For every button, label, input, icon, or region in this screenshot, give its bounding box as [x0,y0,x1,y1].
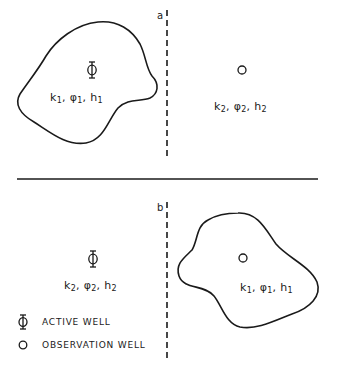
param-k: k [50,91,57,104]
param-h-sub: 1 [97,96,102,105]
legend-observation-well-label: OBSERVATION WELL [42,340,146,350]
legend-active-well-icon [19,315,27,329]
panel-b [89,202,318,358]
param-k: k [240,281,247,294]
param-k: k [214,100,221,113]
active-well-icon [88,62,96,78]
param-k-sub: 2 [71,284,76,293]
param-k-sub: 1 [247,286,252,295]
param-phi-sub: 1 [77,96,82,105]
param-k: k [64,279,71,292]
region-2-params-label: k2, φ2, h2 [214,101,267,113]
observation-well-icon [239,254,247,262]
panel-a-tag: a [157,11,163,21]
param-phi-sub: 1 [267,286,272,295]
region-1-params-label: k1, φ1, h1 [50,92,103,104]
param-k-sub: 1 [57,96,62,105]
param-k-sub: 2 [221,105,226,114]
panel-a [18,10,246,157]
param-phi-sub: 2 [241,105,246,114]
region-1-outline [178,213,318,328]
region-2-params-label: k2, φ2, h2 [64,280,117,292]
observation-well-icon [238,66,246,74]
param-phi-sub: 2 [91,284,96,293]
param-h-sub: 2 [261,105,266,114]
param-h-sub: 1 [287,286,292,295]
legend-active-well-label: ACTIVE WELL [42,317,111,327]
region-1-params-label: k1, φ1, h1 [240,282,293,294]
panel-b-tag: b [157,203,163,213]
region-1-outline [18,22,157,144]
param-h-sub: 2 [111,284,116,293]
active-well-icon [89,251,97,267]
legend-observation-well-icon [19,341,27,349]
